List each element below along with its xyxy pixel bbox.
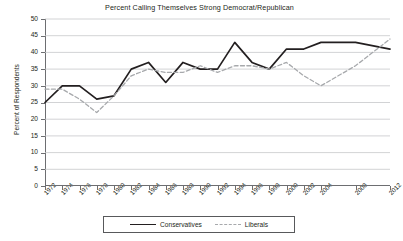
- legend-label-liberals: Liberals: [245, 221, 268, 228]
- legend-item-liberals: Liberals: [215, 221, 268, 228]
- legend-swatch-dashed-icon: [215, 224, 241, 225]
- chart-legend: Conservatives Liberals: [103, 216, 295, 233]
- y-tick-label: 40: [12, 49, 38, 56]
- x-tick-label: 2012: [388, 182, 403, 197]
- plot-lines: [45, 19, 390, 186]
- y-tick-label: 20: [12, 116, 38, 123]
- y-tick-label: 35: [12, 66, 38, 73]
- y-tick-label: 5: [12, 166, 38, 173]
- y-tick-label: 0: [12, 183, 38, 190]
- legend-item-conservatives: Conservatives: [130, 221, 202, 228]
- legend-swatch-solid-icon: [130, 224, 156, 225]
- y-tick-label: 45: [12, 32, 38, 39]
- y-tick-label: 50: [12, 16, 38, 23]
- y-tick-label: 25: [12, 99, 38, 106]
- y-tick-label: 10: [12, 149, 38, 156]
- chart-title: Percent Calling Themselves Strong Democr…: [0, 3, 399, 12]
- legend-label-conservatives: Conservatives: [160, 221, 202, 228]
- y-tick-label: 30: [12, 83, 38, 90]
- series-line-liberals: [45, 39, 390, 112]
- y-tick-label: 15: [12, 133, 38, 140]
